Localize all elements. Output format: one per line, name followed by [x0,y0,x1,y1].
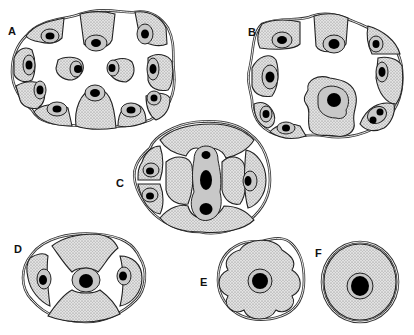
panel-a-diagram [12,10,174,129]
panel-label-a: A [8,25,16,37]
panel-label-c: C [116,177,124,189]
panel-b-diagram [248,14,402,139]
panel-c-diagram [134,121,270,233]
panel-e-diagram [218,238,304,319]
panel-d-diagram [23,234,145,322]
panel-f-diagram [322,242,398,322]
panel-label-b: B [248,26,256,38]
panel-label-e: E [200,276,207,288]
panel-label-f: F [315,247,322,259]
panel-label-d: D [14,243,22,255]
